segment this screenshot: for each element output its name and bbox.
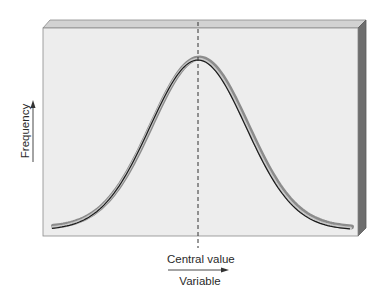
x-axis-label: Variable bbox=[167, 275, 233, 287]
y-axis-label: Frequency bbox=[19, 96, 31, 166]
y-axis-arrowhead-icon bbox=[31, 100, 36, 108]
bell-curve-diagram: Central value Variable Frequency bbox=[0, 0, 386, 302]
central-value-label: Central value bbox=[167, 253, 233, 265]
x-axis-arrowhead-icon bbox=[221, 268, 229, 273]
panel-side-face bbox=[358, 20, 366, 236]
panel-top-bevel bbox=[43, 20, 366, 28]
